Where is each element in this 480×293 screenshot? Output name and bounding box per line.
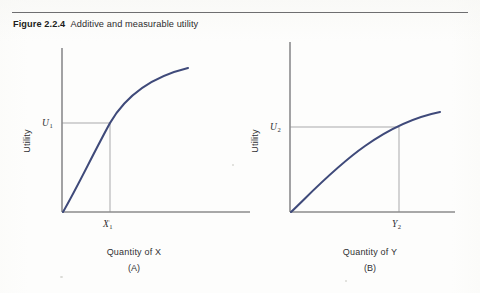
chart-panel-a: U1 X1 Utility Quantity of X (A) (22, 48, 250, 273)
x-axis-title-a: Quantity of X (107, 247, 162, 257)
figure-area: U1 X1 Utility Quantity of X (A) (0, 36, 480, 293)
figure-number: Figure 2.2.4 (13, 19, 65, 29)
x-tick-label-a: X1 (102, 219, 113, 230)
x-axis-title-b: Quantity of Y (343, 247, 397, 257)
figure-caption: Figure 2.2.4 Additive and measurable uti… (13, 19, 198, 29)
figure-title: Additive and measurable utility (71, 19, 199, 29)
y-tick-label-b: U2 (270, 122, 281, 133)
utility-curve-a (63, 68, 188, 212)
panel-letter-b: (B) (364, 263, 376, 273)
y-axis-title-b: Utility (250, 129, 260, 153)
caption-divider (12, 12, 468, 13)
charts-svg: U1 X1 Utility Quantity of X (A) (0, 36, 480, 293)
panel-letter-a: (A) (128, 263, 140, 273)
figure-page: Figure 2.2.4 Additive and measurable uti… (0, 0, 480, 293)
chart-panel-b: U2 Y2 Utility Quantity of Y (B) (250, 42, 455, 273)
y-axis-title-a: Utility (22, 129, 32, 153)
y-tick-label-a: U1 (42, 118, 53, 129)
x-tick-label-b: Y2 (392, 219, 401, 230)
